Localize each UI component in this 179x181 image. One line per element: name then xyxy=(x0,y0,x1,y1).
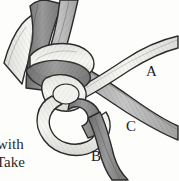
knot-drawing xyxy=(0,0,179,181)
rope-end-label-b: B xyxy=(91,149,101,164)
rope-end-label-a: A xyxy=(146,64,157,79)
knot-center-nub xyxy=(53,84,79,104)
caption-text-line-1: with xyxy=(0,137,24,152)
rope-end-label-c: C xyxy=(126,119,136,134)
caption-text-line-2: Take xyxy=(0,155,25,170)
knot-illustration-figure: A B C with Take xyxy=(0,0,179,181)
